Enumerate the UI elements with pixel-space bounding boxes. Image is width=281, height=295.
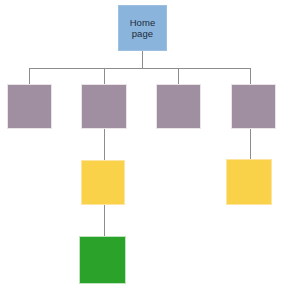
node-section-4[interactable] xyxy=(231,84,276,129)
connector-bus-to-section-4 xyxy=(250,68,251,84)
node-home-page-label: Home page xyxy=(128,17,158,39)
node-section-2[interactable] xyxy=(81,84,127,129)
connector-section-4-to-subsection xyxy=(250,129,251,159)
connector-section-2-to-subsection xyxy=(104,129,105,160)
node-section-3[interactable] xyxy=(156,84,201,129)
connector-bus-to-section-3 xyxy=(178,68,179,84)
node-section-1[interactable] xyxy=(7,84,52,129)
sitemap-diagram: Home page xyxy=(0,0,281,295)
node-subsection-2-1[interactable] xyxy=(81,160,125,205)
connector-subsection-to-green xyxy=(104,205,105,236)
connector-bus-to-section-1 xyxy=(29,68,30,84)
connector-bus-to-section-2 xyxy=(104,68,105,84)
connector-home-to-bus xyxy=(142,51,143,69)
node-home-page[interactable]: Home page xyxy=(118,5,167,51)
node-subsection-4-1[interactable] xyxy=(226,159,272,205)
node-subsection-2-1-1[interactable] xyxy=(79,236,126,284)
connector-bus-horizontal xyxy=(29,68,251,69)
